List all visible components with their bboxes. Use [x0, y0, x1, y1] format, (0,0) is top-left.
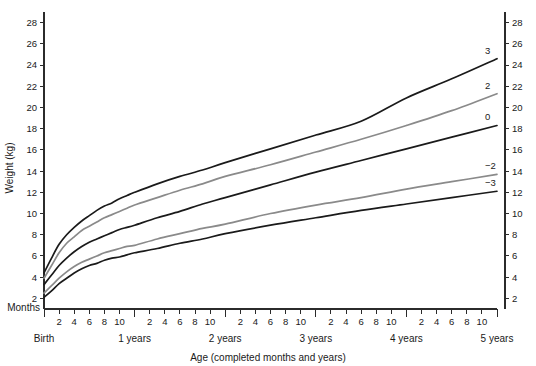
y-axis-title: Weight (kg)	[4, 143, 15, 194]
y-tick-label-right: 14	[512, 166, 523, 177]
x-month-label: 8	[464, 316, 469, 327]
y-tick-label-right: 18	[512, 123, 523, 134]
y-tick-label: 18	[26, 123, 37, 134]
growth-chart: 246810121416182022242628 246810121416182…	[0, 0, 536, 366]
x-month-label: 4	[72, 316, 77, 327]
x-month-label: 10	[386, 316, 397, 327]
curve-label-sd-minus3: −3	[485, 177, 496, 188]
x-year-label: Birth	[34, 333, 55, 344]
x-month-label: 2	[56, 316, 61, 327]
y-tick-label-right: 12	[512, 187, 523, 198]
curve-label-sd-3: 3	[485, 45, 490, 56]
x-month-label: 10	[477, 316, 488, 327]
y-axis-left: 246810121416182022242628	[26, 12, 44, 309]
chart-canvas: 246810121416182022242628 246810121416182…	[0, 0, 536, 366]
months-axis-label: Months	[7, 302, 40, 313]
x-month-label: 8	[192, 316, 197, 327]
y-tick-label: 6	[32, 250, 37, 261]
curve-sd-minus3	[44, 191, 497, 297]
x-year-label: 2 years	[209, 333, 242, 344]
y-tick-label: 28	[26, 17, 37, 28]
y-tick-label-right: 20	[512, 102, 523, 113]
y-tick-label-right: 22	[512, 81, 523, 92]
y-tick-label: 4	[32, 272, 37, 283]
y-tick-label: 24	[26, 59, 37, 70]
x-month-label: 4	[434, 316, 439, 327]
x-month-label: 4	[162, 316, 167, 327]
y-tick-label: 22	[26, 81, 37, 92]
x-axis-title: Age (completed months and years)	[190, 352, 346, 363]
y-tick-label: 14	[26, 166, 37, 177]
y-tick-label: 20	[26, 102, 37, 113]
x-month-label: 2	[328, 316, 333, 327]
y-tick-label-right: 16	[512, 144, 523, 155]
y-axis-right: 246810121416182022242628	[505, 12, 523, 309]
y-tick-label-right: 8	[512, 229, 517, 240]
y-tick-label-right: 2	[512, 293, 517, 304]
curve-label-sd-minus2: −2	[485, 160, 496, 171]
y-tick-label-right: 4	[512, 272, 517, 283]
x-month-label: 10	[114, 316, 125, 327]
y-tick-label-right: 6	[512, 250, 517, 261]
curve-labels-group: 320−2−3	[485, 45, 496, 189]
x-month-label: 2	[147, 316, 152, 327]
x-month-label: 8	[102, 316, 107, 327]
x-month-label: 6	[358, 316, 363, 327]
x-month-label: 6	[177, 316, 182, 327]
x-axis: 246810246810246810246810246810Birth1 yea…	[34, 309, 514, 344]
x-month-label: 10	[295, 316, 306, 327]
x-month-label: 6	[449, 316, 454, 327]
curve-sd-minus2	[44, 174, 497, 293]
x-month-label: 8	[283, 316, 288, 327]
y-tick-label-right: 24	[512, 59, 523, 70]
x-month-label: 4	[343, 316, 348, 327]
x-month-label: 10	[205, 316, 216, 327]
x-month-label: 2	[238, 316, 243, 327]
y-tick-label: 8	[32, 229, 37, 240]
x-year-label: 5 years	[481, 333, 514, 344]
y-tick-label: 12	[26, 187, 37, 198]
x-month-label: 4	[253, 316, 258, 327]
y-tick-label-right: 28	[512, 17, 523, 28]
y-tick-label-right: 10	[512, 208, 523, 219]
y-tick-label: 16	[26, 144, 37, 155]
curve-series-group	[44, 59, 497, 298]
x-month-label: 6	[87, 316, 92, 327]
curve-label-sd-2: 2	[485, 80, 490, 91]
y-tick-label: 26	[26, 38, 37, 49]
x-month-label: 8	[374, 316, 379, 327]
curve-sd-3	[44, 59, 497, 273]
x-year-label: 1 years	[118, 333, 151, 344]
y-tick-label-right: 26	[512, 38, 523, 49]
curve-label-sd-0: 0	[485, 111, 490, 122]
x-month-label: 2	[419, 316, 424, 327]
x-year-label: 4 years	[390, 333, 423, 344]
y-tick-label: 10	[26, 208, 37, 219]
x-year-label: 3 years	[299, 333, 332, 344]
x-month-label: 6	[268, 316, 273, 327]
